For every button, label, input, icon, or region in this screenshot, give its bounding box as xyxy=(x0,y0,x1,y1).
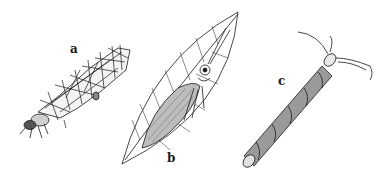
panel-label-c: c xyxy=(278,75,285,87)
illustration xyxy=(0,0,388,176)
panel-label-a: a xyxy=(70,43,78,55)
panel-c-spiral-case-larva xyxy=(241,32,372,170)
panel-label-b: b xyxy=(167,152,175,164)
panel-a-stick-case-larva xyxy=(20,45,130,138)
panel-b-leaf-adult xyxy=(122,12,238,164)
